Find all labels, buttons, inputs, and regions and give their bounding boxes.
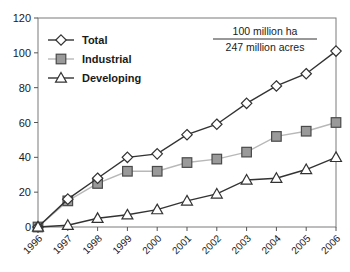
annotation-line-2: 247 million acres (226, 41, 305, 53)
data-point-square (272, 132, 282, 142)
data-point-square (56, 54, 66, 64)
y-axis-tick-label: 60 (19, 117, 31, 129)
x-axis-tick-label: 1998 (81, 232, 105, 256)
data-point-square (242, 147, 252, 157)
data-point-diamond (271, 81, 281, 91)
x-axis-tick-label: 2004 (259, 232, 283, 256)
data-point-diamond (56, 35, 66, 45)
x-axis-tick-label: 2005 (289, 232, 313, 256)
y-axis-tick-label: 120 (13, 12, 31, 24)
line-chart: 0204060801001201996199719981999200020012… (0, 0, 350, 272)
data-point-square (331, 118, 341, 128)
data-point-square (152, 166, 162, 176)
data-point-square (301, 126, 311, 136)
legend-label: Developing (82, 72, 141, 84)
legend-item-developing[interactable]: Developing (48, 72, 141, 84)
data-point-diamond (241, 98, 251, 108)
x-axis-tick-label: 1999 (110, 232, 134, 256)
data-point-square (123, 166, 133, 176)
data-point-diamond (122, 152, 132, 162)
y-axis-tick-label: 80 (19, 82, 31, 94)
annotation-conversion: 100 million ha247 million acres (213, 25, 317, 53)
data-point-diamond (182, 129, 192, 139)
data-point-triangle (331, 152, 342, 162)
data-point-triangle (211, 188, 222, 198)
legend-item-total[interactable]: Total (48, 34, 107, 46)
data-point-diamond (152, 149, 162, 159)
data-point-square (182, 158, 192, 168)
y-axis-tick-label: 40 (19, 151, 31, 163)
legend-label: Total (82, 34, 107, 46)
y-axis-tick-label: 20 (19, 186, 31, 198)
annotation-line-1: 100 million ha (233, 25, 298, 37)
x-axis-tick-label: 2003 (230, 232, 254, 256)
x-axis-tick-label: 2000 (140, 232, 164, 256)
x-axis-tick-label: 1997 (51, 232, 75, 256)
legend-item-industrial[interactable]: Industrial (48, 53, 132, 65)
y-axis-tick-label: 100 (13, 47, 31, 59)
x-axis-tick-label: 1996 (21, 232, 45, 256)
x-axis-tick-label: 2001 (170, 232, 194, 256)
x-axis-tick-label: 2006 (319, 232, 343, 256)
data-point-triangle (301, 164, 312, 174)
x-axis-tick-label: 2002 (200, 232, 224, 256)
data-point-diamond (212, 119, 222, 129)
y-axis-tick-label: 0 (25, 221, 31, 233)
legend: TotalIndustrialDeveloping (48, 34, 141, 84)
data-point-square (212, 154, 222, 164)
chart-container: 0204060801001201996199719981999200020012… (0, 0, 350, 272)
legend-label: Industrial (82, 53, 132, 65)
